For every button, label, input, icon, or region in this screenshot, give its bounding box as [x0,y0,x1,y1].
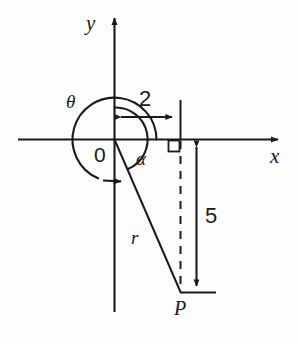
origin-label: 0 [94,144,106,165]
theta-label: θ [66,92,75,111]
alpha-label: α [136,149,146,168]
figure-canvas: y x 0 θ α 2 5 r P [0,0,298,344]
axis-group [18,18,278,312]
radius-line [115,140,181,293]
x-axis-label: x [270,146,279,167]
right-angle-marker [169,141,180,152]
theta-arc-arrowhead [103,181,121,182]
coordinate-diagram [0,0,298,344]
y-axis-label: y [86,13,95,34]
dimension-2-label: 2 [139,88,151,110]
point-p-label: P [174,298,186,318]
dimension-5-label: 5 [205,205,217,227]
radius-label: r [131,228,138,247]
